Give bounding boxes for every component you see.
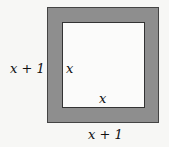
outer-side-label-bottom: x + 1	[88, 128, 123, 141]
inner-side-label-bottom: x	[99, 92, 106, 105]
inner-side-label-left: x	[66, 62, 73, 75]
outer-side-label-left: x + 1	[10, 62, 45, 75]
